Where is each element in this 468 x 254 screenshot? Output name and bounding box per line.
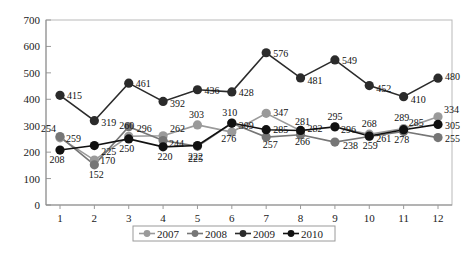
data-label-2007-7: 347	[273, 107, 288, 118]
data-label-2010-11: 285	[409, 117, 424, 128]
data-point-2010-9	[330, 122, 339, 131]
data-label-2007-5: 303	[189, 109, 204, 120]
y-tick-label: 0	[35, 199, 41, 211]
data-point-2009-7	[262, 48, 271, 57]
x-tick-label: 6	[229, 212, 235, 224]
data-label-2007-2: 170	[100, 155, 115, 166]
data-label-2010-8: 282	[308, 123, 323, 134]
data-label-2008-2: 152	[89, 169, 104, 180]
data-point-2009-11	[399, 92, 408, 101]
data-label-2008-11: 278	[394, 134, 409, 145]
x-tick-label: 5	[195, 212, 201, 224]
data-point-2009-2	[90, 116, 99, 125]
y-tick-label: 500	[24, 67, 41, 79]
x-tick-label: 12	[433, 212, 444, 224]
legend-marker-2008	[192, 230, 199, 237]
x-tick-label: 11	[398, 212, 409, 224]
data-point-2009-5	[193, 85, 202, 94]
data-label-2010-3: 250	[119, 143, 134, 154]
data-label-2008-6: 309	[239, 120, 254, 131]
data-label-2008-3: 296	[137, 123, 152, 134]
x-tick-label: 10	[364, 212, 376, 224]
legend-marker-2007	[144, 230, 151, 237]
data-point-2010-6	[227, 118, 236, 127]
data-point-2007-7	[262, 109, 271, 118]
legend-label-2010: 2010	[301, 228, 324, 240]
data-point-2008-9	[330, 138, 339, 147]
data-label-2010-12: 305	[445, 120, 460, 131]
data-label-2009-11: 410	[411, 94, 426, 105]
y-tick-label: 300	[24, 120, 41, 132]
data-label-2009-8: 481	[308, 75, 323, 86]
data-point-2010-8	[296, 126, 305, 135]
data-label-2008-4: 244	[169, 138, 184, 149]
x-tick-label: 3	[126, 212, 132, 224]
data-point-2010-5	[193, 141, 202, 150]
data-label-2007-11: 289	[394, 112, 409, 123]
data-label-2010-5: 225	[188, 153, 203, 164]
data-label-2008-7: 257	[263, 139, 278, 150]
data-label-2007-9: 295	[327, 111, 342, 122]
chart-container: 0100200300400500600700 123456789101112 2…	[0, 0, 468, 254]
data-label-2010-6: 310	[222, 107, 237, 118]
legend-label-2009: 2009	[253, 228, 276, 240]
data-label-2007-3: 260	[119, 120, 134, 131]
x-tick-label: 9	[332, 212, 338, 224]
data-label-2007-6: 276	[221, 133, 236, 144]
data-label-2008-1: 259	[66, 133, 81, 144]
data-point-2009-1	[55, 91, 64, 100]
data-label-2010-2: 225	[101, 146, 116, 157]
data-label-2009-5: 436	[204, 85, 219, 96]
data-label-2009-7: 576	[273, 48, 288, 59]
data-point-2010-12	[433, 120, 442, 129]
x-tick-label: 2	[92, 212, 98, 224]
data-label-2008-9: 238	[343, 140, 358, 151]
data-point-2009-4	[158, 97, 167, 106]
data-label-2009-10: 452	[376, 83, 391, 94]
y-tick-label: 100	[24, 173, 41, 185]
data-label-2009-2: 319	[101, 117, 116, 128]
y-tick-label: 700	[24, 14, 41, 26]
legend-marker-2010	[288, 230, 295, 237]
data-label-2009-9: 549	[342, 55, 357, 66]
y-tick-label: 600	[24, 40, 41, 52]
data-label-2009-3: 461	[136, 78, 151, 89]
data-label-2007-4: 262	[170, 123, 185, 134]
data-label-2007-1: 254	[41, 123, 56, 134]
data-label-2010-10: 261	[376, 133, 391, 144]
data-point-2010-2	[90, 141, 99, 150]
data-point-2009-8	[296, 73, 305, 82]
data-point-2009-12	[433, 74, 442, 83]
chart-legend: 2007200820092010	[133, 226, 335, 241]
x-tick-label: 7	[263, 212, 269, 224]
data-label-2007-10: 268	[362, 118, 377, 129]
data-label-2009-1: 415	[67, 90, 82, 101]
data-point-2007-5	[193, 120, 202, 129]
x-tick-label: 1	[57, 212, 63, 224]
data-point-2009-10	[365, 81, 374, 90]
y-tick-label: 200	[24, 146, 41, 158]
data-point-2008-12	[433, 133, 442, 142]
data-point-2009-9	[330, 55, 339, 64]
line-chart: 0100200300400500600700 123456789101112 2…	[0, 0, 468, 254]
data-label-2010-9: 296	[341, 124, 356, 135]
data-point-2009-6	[227, 87, 236, 96]
data-label-2009-6: 428	[239, 87, 254, 98]
x-tick-label: 4	[160, 212, 166, 224]
data-label-2010-1: 208	[50, 154, 65, 165]
legend-label-2008: 2008	[205, 228, 228, 240]
data-point-2009-3	[124, 79, 133, 88]
data-point-2010-7	[262, 125, 271, 134]
data-label-2010-4: 220	[158, 151, 173, 162]
data-label-2008-8: 266	[295, 136, 310, 147]
legend-label-2007: 2007	[157, 228, 180, 240]
data-label-2010-7: 285	[273, 124, 288, 135]
data-point-2008-1	[55, 132, 64, 141]
y-tick-label: 400	[24, 93, 41, 105]
data-label-2009-4: 392	[170, 98, 185, 109]
x-tick-label: 8	[298, 212, 304, 224]
data-label-2007-12: 334	[444, 104, 459, 115]
data-label-2008-12: 255	[445, 133, 460, 144]
data-label-2009-12: 480	[445, 71, 460, 82]
legend-marker-2009	[240, 230, 247, 237]
